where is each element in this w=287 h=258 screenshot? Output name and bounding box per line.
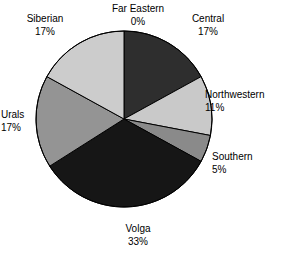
slice-label-central-name: Central	[166, 12, 250, 25]
slice-label-siberian-value: 17%	[2, 25, 88, 38]
slice-label-southern-value: 5%	[212, 163, 287, 176]
slice-label-central: Central 17%	[166, 12, 250, 38]
slice-label-volga: Volga 33%	[88, 222, 188, 248]
slice-label-volga-value: 33%	[88, 235, 188, 248]
slice-label-siberian: Siberian 17%	[2, 12, 88, 38]
pie-chart: Far Eastern 0% Siberian 17% Central 17% …	[0, 0, 287, 258]
slice-label-northwestern-value: 11%	[205, 101, 287, 114]
slice-label-central-value: 17%	[166, 25, 250, 38]
slice-label-urals-name: Urals	[1, 108, 45, 121]
slice-label-urals-value: 17%	[1, 121, 45, 134]
slice-label-volga-name: Volga	[88, 222, 188, 235]
slice-label-northwestern: Northwestern 11%	[205, 88, 287, 114]
slice-label-siberian-name: Siberian	[2, 12, 88, 25]
slice-label-southern: Southern 5%	[212, 150, 287, 176]
slice-label-southern-name: Southern	[212, 150, 287, 163]
slice-label-urals: Urals 17%	[1, 108, 45, 134]
pie-slice-group	[36, 31, 212, 207]
slice-label-northwestern-name: Northwestern	[205, 88, 287, 101]
